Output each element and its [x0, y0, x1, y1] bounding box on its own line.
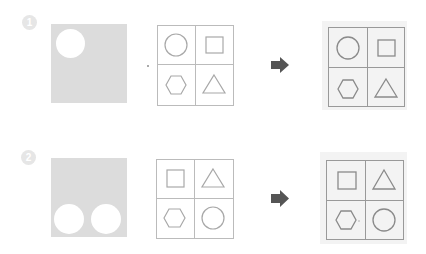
square-icon [338, 172, 356, 189]
triangle-icon [375, 79, 397, 97]
problem-1-badge: 1 [22, 15, 37, 30]
hole-1 [54, 204, 84, 234]
triangle-icon [373, 170, 395, 189]
problem-2-result-grid [326, 160, 404, 240]
square-icon [378, 40, 395, 56]
problem-1-source-card [51, 24, 127, 103]
problem-2-shape-grid [156, 159, 234, 239]
hole-2 [91, 204, 121, 234]
right-arrow-icon [271, 57, 289, 73]
problem-1-shape-grid [157, 25, 234, 106]
hexagon-icon [338, 80, 358, 98]
circle-icon [337, 37, 359, 59]
problem-1-result-grid [328, 27, 405, 107]
circle-icon [373, 209, 395, 231]
problem-2-badge: 2 [21, 150, 36, 165]
dot-marker [147, 65, 149, 67]
right-arrow-icon [271, 190, 289, 207]
hole-1 [56, 29, 85, 58]
hexagon-icon [336, 211, 356, 229]
problem-2-source-card [51, 158, 127, 237]
